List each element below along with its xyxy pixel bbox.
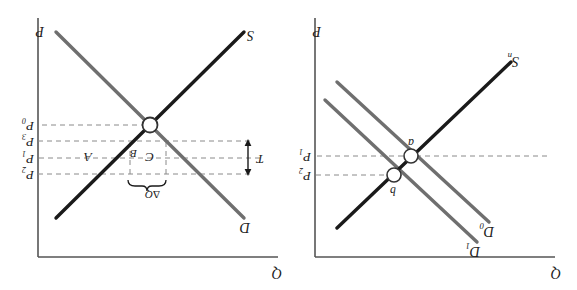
point-label-a: a (408, 137, 414, 149)
panel-left: Q P D1 D0 Sn a b P1 P2 (289, 0, 577, 290)
curve-supply (337, 62, 511, 228)
panel-right-axis-x-label: P (35, 24, 44, 38)
region-label-c: C (145, 151, 154, 164)
curve-label-demand-right: D (240, 218, 250, 234)
point-marker-equilibrium (143, 118, 158, 133)
figure-root: Q P D1 D0 Sn a b P1 P2 (0, 0, 577, 290)
price-label-p2-right: P2 (22, 165, 34, 182)
price-label-p1-left: P1 (299, 147, 311, 164)
curve-label-supply-right: S (247, 26, 254, 42)
price-label-p0-right: P0 (22, 116, 34, 133)
point-marker-b (387, 168, 401, 182)
tax-arrow-head-bottom (245, 139, 252, 146)
annotation-label-quantity-change: ΔQ (145, 189, 160, 200)
tax-arrow-head-top (245, 169, 252, 176)
price-label-p3-right: P3 (22, 132, 34, 149)
panel-right-canvas (0, 0, 288, 290)
price-label-p2-left: P2 (299, 166, 311, 183)
panel-left-canvas (289, 0, 577, 290)
region-label-a: A (84, 151, 92, 164)
panel-left-axis-x-label: P (312, 24, 321, 38)
price-label-p1-right: P1 (22, 149, 34, 166)
curve-label-demand-shifted: D1 (466, 242, 480, 258)
annotation-label-tax: T (257, 153, 264, 166)
curve-label-demand-original: D0 (480, 222, 494, 238)
point-marker-a (404, 149, 418, 163)
panel-right: Q P D S P2 P1 P3 P0 A B C T ΔQ (0, 0, 288, 290)
region-label-b: B (130, 148, 137, 159)
panel-left-axis-y-label: Q (551, 266, 561, 280)
point-label-b: b (390, 185, 396, 197)
curve-label-supply: Sn (508, 52, 519, 68)
curve-demand-shifted (325, 100, 477, 242)
panel-right-axis-y-label: Q (272, 266, 282, 280)
